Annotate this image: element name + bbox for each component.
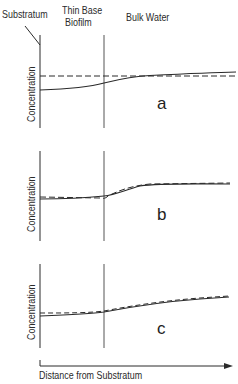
panel-a-ylabel: Concentration	[25, 66, 37, 122]
panel-a-letter: a	[157, 94, 166, 114]
substratum-leader-line	[25, 26, 40, 45]
panel-b-solid-profile	[40, 184, 230, 199]
x-axis-arrow-icon	[224, 363, 233, 369]
panel-b-letter: b	[157, 205, 166, 225]
panel-a-solid-profile	[40, 72, 236, 90]
panel-b-dashed-profile	[40, 183, 230, 198]
panel-c-ylabel: Concentration	[25, 284, 37, 340]
panel-c-letter: c	[157, 319, 166, 339]
panel-b-ylabel: Concentration	[25, 176, 37, 232]
x-axis-label: Distance from Substratum	[39, 370, 142, 381]
